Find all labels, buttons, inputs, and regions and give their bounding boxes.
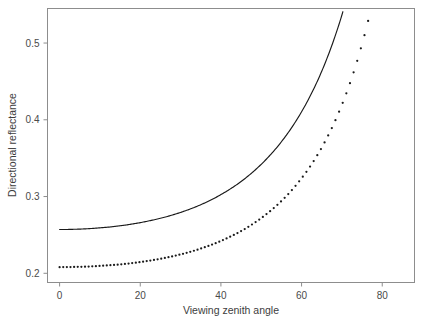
dotted-reflectance-point bbox=[149, 259, 151, 261]
dotted-reflectance-point bbox=[84, 266, 86, 268]
series-upper-solid-curve bbox=[60, 12, 343, 230]
dotted-reflectance-point bbox=[182, 253, 184, 255]
dotted-reflectance-point bbox=[106, 264, 108, 266]
dotted-reflectance-point bbox=[284, 197, 286, 199]
dotted-reflectance-point bbox=[189, 251, 191, 253]
dotted-reflectance-point bbox=[251, 223, 253, 225]
dotted-reflectance-point bbox=[240, 230, 242, 232]
dotted-reflectance-point bbox=[73, 266, 75, 268]
chart-figure: 020406080 0.20.30.40.5 Viewing zenith an… bbox=[0, 0, 434, 323]
dotted-reflectance-point bbox=[302, 176, 304, 178]
dotted-reflectance-point bbox=[135, 262, 137, 264]
dotted-reflectance-point bbox=[113, 264, 115, 266]
dotted-reflectance-point bbox=[138, 261, 140, 263]
dotted-reflectance-point bbox=[117, 264, 119, 266]
dotted-reflectance-point bbox=[331, 127, 333, 129]
dotted-reflectance-point bbox=[229, 236, 231, 238]
dotted-reflectance-point bbox=[345, 92, 347, 94]
dotted-reflectance-point bbox=[265, 213, 267, 215]
x-axis-ticks bbox=[60, 283, 383, 287]
dotted-reflectance-point bbox=[186, 252, 188, 254]
dotted-reflectance-point bbox=[77, 266, 79, 268]
dotted-reflectance-point bbox=[352, 71, 354, 73]
dotted-reflectance-point bbox=[247, 226, 249, 228]
dotted-reflectance-point bbox=[80, 266, 82, 268]
dotted-reflectance-point bbox=[280, 200, 282, 202]
dotted-reflectance-point bbox=[98, 265, 100, 267]
dotted-reflectance-point bbox=[167, 256, 169, 258]
y-tick-label: 0.5 bbox=[26, 38, 40, 49]
solid-reflectance-curve bbox=[60, 12, 343, 230]
dotted-reflectance-point bbox=[367, 20, 369, 22]
y-tick-label: 0.2 bbox=[26, 268, 40, 279]
dotted-reflectance-point bbox=[131, 262, 133, 264]
x-tick-label: 40 bbox=[215, 290, 227, 301]
dotted-reflectance-point bbox=[204, 246, 206, 248]
dotted-reflectance-point bbox=[193, 250, 195, 252]
x-tick-label: 60 bbox=[296, 290, 308, 301]
y-axis-tick-labels: 0.20.30.40.5 bbox=[26, 38, 40, 279]
dotted-reflectance-point bbox=[233, 234, 235, 236]
dotted-reflectance-point bbox=[127, 262, 129, 264]
dotted-reflectance-point bbox=[244, 228, 246, 230]
dotted-reflectance-point bbox=[327, 134, 329, 136]
dotted-reflectance-point bbox=[262, 216, 264, 218]
x-axis-tick-labels: 020406080 bbox=[57, 290, 388, 301]
dotted-reflectance-point bbox=[360, 47, 362, 49]
dotted-reflectance-point bbox=[102, 265, 104, 267]
dotted-reflectance-point bbox=[323, 141, 325, 143]
dotted-reflectance-point bbox=[142, 261, 144, 263]
dotted-reflectance-point bbox=[156, 258, 158, 260]
dotted-reflectance-point bbox=[269, 210, 271, 212]
dotted-reflectance-point bbox=[218, 241, 220, 243]
dotted-reflectance-point bbox=[88, 265, 90, 267]
dotted-reflectance-point bbox=[287, 193, 289, 195]
dotted-reflectance-point bbox=[258, 218, 260, 220]
dotted-reflectance-point bbox=[175, 254, 177, 256]
dotted-reflectance-point bbox=[91, 265, 93, 267]
dotted-reflectance-point bbox=[120, 263, 122, 265]
reflectance-plot: 020406080 0.20.30.40.5 Viewing zenith an… bbox=[0, 0, 434, 323]
dotted-reflectance-point bbox=[338, 111, 340, 113]
dotted-reflectance-point bbox=[171, 255, 173, 257]
dotted-reflectance-point bbox=[254, 221, 256, 223]
dotted-reflectance-point bbox=[207, 245, 209, 247]
dotted-reflectance-point bbox=[313, 160, 315, 162]
y-axis-ticks bbox=[44, 43, 48, 273]
plot-frame bbox=[48, 9, 415, 283]
dotted-reflectance-point bbox=[309, 165, 311, 167]
dotted-reflectance-point bbox=[95, 265, 97, 267]
dotted-reflectance-point bbox=[298, 180, 300, 182]
dotted-reflectance-point bbox=[160, 258, 162, 260]
x-axis-title: Viewing zenith angle bbox=[183, 304, 279, 316]
dotted-reflectance-point bbox=[69, 266, 71, 268]
dotted-reflectance-point bbox=[66, 266, 68, 268]
data-series-layer bbox=[58, 12, 369, 269]
dotted-reflectance-point bbox=[124, 263, 126, 265]
dotted-reflectance-point bbox=[178, 254, 180, 256]
dotted-reflectance-point bbox=[200, 247, 202, 249]
dotted-reflectance-point bbox=[211, 243, 213, 245]
dotted-reflectance-point bbox=[164, 257, 166, 259]
dotted-reflectance-point bbox=[225, 237, 227, 239]
dotted-reflectance-point bbox=[291, 189, 293, 191]
dotted-reflectance-point bbox=[356, 60, 358, 62]
series-lower-dotted-series bbox=[58, 20, 369, 269]
dotted-reflectance-point bbox=[236, 232, 238, 234]
dotted-reflectance-point bbox=[294, 185, 296, 187]
x-tick-label: 80 bbox=[377, 290, 389, 301]
dotted-reflectance-point bbox=[349, 82, 351, 84]
dotted-reflectance-point bbox=[320, 148, 322, 150]
dotted-reflectance-point bbox=[146, 260, 148, 262]
y-axis-title: Directional reflectance bbox=[6, 93, 18, 197]
dotted-reflectance-point bbox=[316, 154, 318, 156]
dotted-reflectance-point bbox=[305, 171, 307, 173]
x-tick-label: 20 bbox=[135, 290, 147, 301]
x-tick-label: 0 bbox=[57, 290, 63, 301]
dotted-reflectance-point bbox=[334, 119, 336, 121]
dotted-reflectance-point bbox=[109, 264, 111, 266]
dotted-reflectance-point bbox=[222, 239, 224, 241]
dotted-reflectance-point bbox=[342, 102, 344, 104]
y-tick-label: 0.3 bbox=[26, 191, 40, 202]
dotted-reflectance-point bbox=[215, 242, 217, 244]
